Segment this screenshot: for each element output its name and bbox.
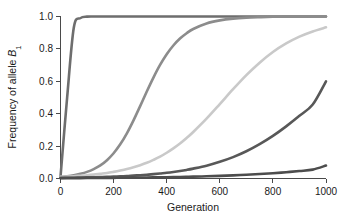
y-tick-label: 0.8	[39, 43, 53, 54]
x-tick-label: 800	[265, 186, 282, 197]
y-axis-title-text: Frequency of allele	[6, 57, 18, 149]
x-axis-title: Generation	[167, 201, 219, 213]
y-axis-title-symbol: B	[6, 50, 18, 57]
svg-text:Frequency of allele B1: Frequency of allele B1	[6, 46, 23, 149]
y-tick-label: 0.4	[39, 108, 53, 119]
y-axis-title-subscript: 1	[14, 46, 23, 50]
y-tick-label: 1.0	[39, 11, 53, 22]
y-tick-labels: 1.0 0.8 0.6 0.4 0.2 0.0	[39, 11, 53, 184]
x-tick-label: 400	[158, 186, 175, 197]
data-line-curve-3	[61, 27, 327, 177]
y-tick-label: 0.2	[39, 141, 53, 152]
y-tick-label: 0.0	[39, 173, 53, 184]
y-tick-marks	[56, 17, 61, 179]
curves-group	[61, 16, 327, 178]
data-line-curve-4	[61, 81, 327, 178]
x-tick-labels: 0 200 400 600 800 1000	[58, 186, 338, 197]
y-axis-title: Frequency of allele B1	[6, 46, 23, 149]
data-line-curve-2	[61, 16, 327, 176]
x-tick-label: 200	[105, 186, 122, 197]
chart-svg: 1.0 0.8 0.6 0.4 0.2 0.0 0 200 400 600 80…	[0, 0, 352, 217]
y-tick-label: 0.6	[39, 76, 53, 87]
x-tick-label: 0	[58, 186, 64, 197]
x-tick-label: 1000	[315, 186, 338, 197]
x-tick-label: 600	[211, 186, 228, 197]
data-line-curve-1	[61, 16, 327, 176]
figure-root: 1.0 0.8 0.6 0.4 0.2 0.0 0 200 400 600 80…	[0, 0, 352, 217]
